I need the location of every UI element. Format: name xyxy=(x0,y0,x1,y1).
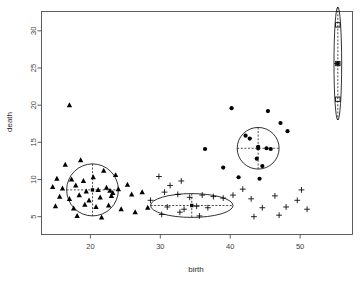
point-circle-13 xyxy=(257,177,261,181)
point-circle-6 xyxy=(264,146,268,150)
chart-canvas: 20304050 51015202530 birth death xyxy=(0,0,361,281)
point-circle-12 xyxy=(236,175,240,179)
x-axis-title: birth xyxy=(188,265,204,274)
y-tick-label-30: 30 xyxy=(29,27,38,35)
plot-background xyxy=(0,0,361,281)
y-tick-label-5: 5 xyxy=(29,215,38,219)
ellipse-cluster-1-center xyxy=(91,188,94,191)
point-circle-0 xyxy=(229,106,233,110)
point-circle-9 xyxy=(260,164,264,168)
point-circle-7 xyxy=(269,147,273,151)
y-tick-label-25: 25 xyxy=(29,64,38,72)
ellipse-cluster-2-center xyxy=(190,204,193,207)
y-axis-title: death xyxy=(5,112,14,132)
point-circle-5 xyxy=(256,145,260,149)
y-tick-label-15: 15 xyxy=(29,138,38,146)
x-tick-label-50: 50 xyxy=(296,242,304,251)
y-tick-label-20: 20 xyxy=(29,101,38,109)
point-circle-10 xyxy=(203,147,207,151)
point-circle-4 xyxy=(248,137,252,141)
point-circle-11 xyxy=(221,166,225,170)
scatter-plot-figure: 20304050 51015202530 birth death xyxy=(0,0,361,281)
point-circle-1 xyxy=(266,109,270,113)
point-circle-8 xyxy=(255,157,259,161)
point-circle-2 xyxy=(278,121,282,125)
point-circle-14 xyxy=(285,129,289,133)
x-tick-label-30: 30 xyxy=(156,242,164,251)
x-tick-label-20: 20 xyxy=(86,242,94,251)
ellipse-cluster-4-center xyxy=(336,62,339,65)
x-tick-label-40: 40 xyxy=(226,242,234,251)
y-tick-label-10: 10 xyxy=(29,175,38,183)
point-circle-3 xyxy=(243,134,247,138)
